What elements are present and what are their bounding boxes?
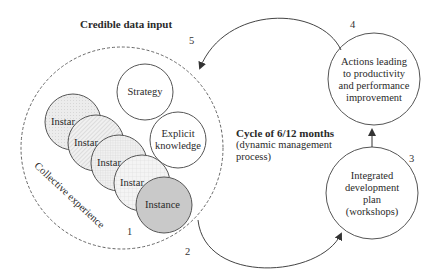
cycle-heading: Cycle of 6/12 months <box>236 127 334 139</box>
explicit-knowledge-label-line2: knowledge <box>150 140 206 152</box>
cycle-subtext-line3: process) <box>236 151 271 163</box>
actions-node-line2: to productivity <box>328 68 420 80</box>
strategy-label: Strategy <box>117 86 173 98</box>
actions-node-line1: Actions leading <box>328 56 420 68</box>
credible-data-input-title: Credible data input <box>80 18 172 30</box>
integrated-node-line1: Integrated <box>326 170 418 182</box>
instance-label-3: Instar <box>97 157 121 169</box>
step-number-4: 4 <box>350 19 355 30</box>
step-number-3: 3 <box>409 153 414 164</box>
actions-node-line4: improvement <box>328 92 420 104</box>
instance-label-4: Instar <box>120 177 144 189</box>
arrow-actions-to-input <box>200 18 341 68</box>
instance-label-1: Instar <box>51 116 75 128</box>
cycle-diagram <box>0 0 438 278</box>
arrow-experience-to-plan <box>198 220 341 268</box>
actions-node-line3: and performance <box>328 80 420 92</box>
integrated-node-line2: development <box>326 182 418 194</box>
step-number-5: 5 <box>189 35 194 46</box>
explicit-knowledge-label-line1: Explicit <box>150 128 206 140</box>
step-number-1: 1 <box>127 226 132 237</box>
integrated-node-line3: plan <box>326 194 418 206</box>
integrated-node-line4: (workshops) <box>326 206 418 218</box>
cycle-subtext-line2: (dynamic management <box>236 139 332 151</box>
instance-label-2: Instar <box>74 137 98 149</box>
step-number-2: 2 <box>185 246 190 257</box>
instance-label-5: Instance <box>145 199 180 211</box>
